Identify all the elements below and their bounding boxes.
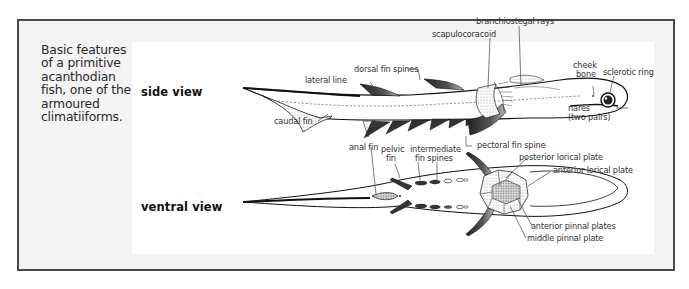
label-anterior-lorical-plate: anterior lorical plate <box>553 165 633 175</box>
label-scapulocoracoid: scapulocoracoid <box>432 29 496 39</box>
label-sclerotic-ring: sclerotic ring <box>603 67 654 77</box>
label-nares-two-pairs: (two pairs) <box>568 112 610 122</box>
label-anal-fin: anal fin <box>349 142 378 152</box>
label-pectoral-fin-spine: pectoral fin spine <box>477 140 546 150</box>
label-posterior-lorical-plate: posterior lorical plate <box>519 152 603 162</box>
label-bone: bone <box>576 69 596 79</box>
label-fin-spines: fin spines <box>415 153 453 163</box>
label-fin: fin <box>386 153 396 163</box>
label-branchiostegal-rays: branchiostegal rays <box>476 16 554 26</box>
label-dorsal-fin-spines: dorsal fin spines <box>354 64 418 74</box>
label-anterior-pinnal-plates: anterior pinnal plates <box>531 221 616 231</box>
label-caudal-fin: caudal fin <box>274 116 313 126</box>
fish-illustration: branchiostegal rays scapulocoracoid dors… <box>0 0 689 289</box>
label-middle-pinnal-plate: middle pinnal plate <box>527 233 603 243</box>
label-lateral-line: lateral line <box>305 75 347 85</box>
